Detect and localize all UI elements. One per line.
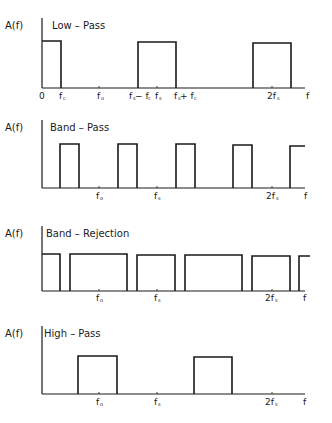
- svg-text:c: c: [148, 95, 151, 101]
- svg-text:s: s: [159, 95, 162, 101]
- svg-text:2f: 2f: [267, 91, 277, 101]
- tick-label-fs: f s: [155, 91, 162, 101]
- y-axis-label: A(f): [5, 228, 23, 239]
- svg-text:s: s: [158, 297, 161, 303]
- passband: [42, 41, 61, 88]
- tick-label-fs: f s: [154, 191, 161, 201]
- tick-label-fo: f o: [96, 191, 103, 201]
- tick-label-fo: f o: [97, 91, 104, 101]
- svg-text:c: c: [194, 95, 197, 101]
- passband: [233, 145, 252, 188]
- y-axis-label: A(f): [5, 20, 23, 31]
- x-axis-label: f: [303, 397, 307, 407]
- tick-label-2fs: 2f s: [266, 191, 279, 201]
- x-axis-label: f: [303, 293, 307, 303]
- tick-label-fo: f o: [96, 397, 103, 407]
- svg-text:2f: 2f: [266, 191, 276, 201]
- svg-text:o: o: [100, 401, 103, 407]
- y-axis-label: A(f): [5, 122, 23, 133]
- passband: [60, 144, 79, 188]
- svg-text:s: s: [158, 195, 161, 201]
- svg-text:+ f: + f: [180, 91, 194, 101]
- panel-low-pass: A(f) Low – Pass 0 f c f o f s − f c f s: [5, 18, 310, 101]
- svg-text:o: o: [100, 297, 103, 303]
- passband: [70, 254, 127, 291]
- x-axis-label: f: [306, 91, 310, 101]
- passband: [252, 256, 290, 291]
- tick-label-2fs: 2f s: [267, 91, 280, 101]
- tick-label-fc: f c: [59, 91, 66, 101]
- passband: [290, 146, 305, 188]
- passband: [118, 144, 137, 188]
- panel-high-pass: A(f) High – Pass f o f s 2f s f: [5, 326, 307, 407]
- passband: [137, 255, 175, 291]
- svg-text:c: c: [63, 95, 66, 101]
- svg-text:s: s: [277, 95, 280, 101]
- x-axis-label: f: [304, 191, 308, 201]
- tick-label-fs: f s: [154, 293, 161, 303]
- svg-text:2f: 2f: [265, 397, 275, 407]
- passband: [299, 256, 310, 291]
- passband: [138, 42, 176, 88]
- tick-label-fo: f o: [96, 293, 103, 303]
- panel-band-pass: A(f) Band – Pass f o f s 2f s f: [5, 120, 308, 201]
- passband: [176, 144, 195, 188]
- tick-label-fs-plus-fc: f s + f c: [174, 91, 197, 101]
- passband: [42, 254, 60, 291]
- passband: [194, 357, 232, 394]
- passband: [253, 43, 291, 88]
- panel-title: Band – Pass: [50, 122, 109, 133]
- passband: [78, 356, 117, 394]
- tick-label-0: 0: [39, 91, 45, 101]
- tick-label-fs-minus-fc: f s − f c: [129, 91, 151, 101]
- svg-text:o: o: [100, 195, 103, 201]
- panel-title: High – Pass: [44, 328, 100, 339]
- filter-spectra-diagram: A(f) Low – Pass 0 f c f o f s − f c f s: [0, 0, 332, 423]
- tick-label-2fs: 2f s: [265, 293, 278, 303]
- svg-text:s: s: [158, 401, 161, 407]
- svg-text:s: s: [276, 195, 279, 201]
- panel-title: Band – Rejection: [46, 228, 129, 239]
- tick-label-2fs: 2f s: [265, 397, 278, 407]
- svg-text:o: o: [101, 95, 104, 101]
- panel-band-rejection: A(f) Band – Rejection f o f s 2f s f: [5, 226, 310, 303]
- tick-label-fs: f s: [154, 397, 161, 407]
- svg-text:s: s: [275, 401, 278, 407]
- svg-text:s: s: [275, 297, 278, 303]
- svg-text:2f: 2f: [265, 293, 275, 303]
- y-axis-label: A(f): [5, 328, 23, 339]
- panel-title: Low – Pass: [52, 20, 105, 31]
- passband: [185, 255, 242, 291]
